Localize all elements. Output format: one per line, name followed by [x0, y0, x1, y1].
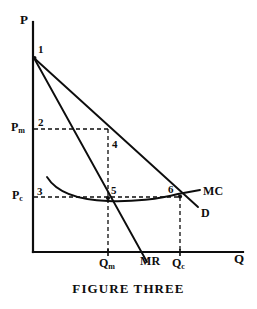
- point-label-1: 1: [38, 44, 44, 55]
- point-6-marker: [178, 194, 182, 198]
- y-tick-pc-sub: c: [19, 194, 23, 203]
- point-label-4: 4: [112, 139, 118, 150]
- marginal-revenue-curve: [34, 58, 147, 262]
- y-tick-pm-sub: m: [18, 126, 25, 135]
- point-label-6: 6: [168, 184, 174, 195]
- y-tick-pc: Pc: [12, 189, 23, 201]
- point-5-marker: [106, 196, 110, 200]
- figure-three-container: P Q Pm Pc Qm Qc 1 2 3 4 5 6 MC D MR FIGU…: [0, 0, 257, 309]
- mc-curve-label: MC: [203, 185, 223, 197]
- y-axis-label: P: [20, 13, 28, 26]
- x-tick-qc-base: Q: [172, 256, 181, 270]
- x-tick-qc-sub: c: [181, 262, 185, 271]
- point-1-marker: [33, 56, 37, 60]
- mr-curve-label: MR: [140, 255, 160, 267]
- x-tick-qc: Qc: [172, 257, 185, 269]
- point-label-3: 3: [37, 186, 43, 197]
- figure-caption: FIGURE THREE: [0, 281, 257, 297]
- x-axis-label: Q: [234, 252, 244, 265]
- y-tick-pm: Pm: [11, 121, 25, 133]
- x-tick-qm-sub: m: [108, 262, 115, 271]
- point-label-2: 2: [38, 117, 44, 128]
- point-label-5: 5: [111, 185, 117, 196]
- x-tick-qm: Qm: [99, 257, 115, 269]
- demand-curve-label: D: [201, 207, 210, 219]
- x-tick-qm-base: Q: [99, 256, 108, 270]
